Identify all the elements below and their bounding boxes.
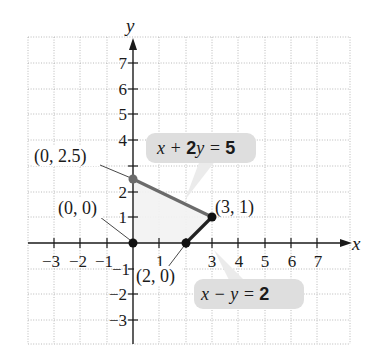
y-tick-label: 6	[119, 80, 128, 99]
x-tick-label: 3	[208, 252, 217, 271]
y-tick-label: 1	[119, 208, 128, 227]
eq1-part-c: y =	[194, 138, 225, 158]
x-tick-label: −2	[69, 252, 87, 271]
vertex-0-2.5	[129, 175, 138, 184]
y-tick-label: −2	[109, 285, 127, 304]
graph-canvas: y x −3 −2 −1 1 3 4 5 6 7 7 6 5 4 2 1 −1 …	[0, 0, 381, 353]
y-tick-label: 7	[119, 54, 128, 73]
vertex-2-0	[182, 239, 191, 248]
point-label-0-2.5: (0, 2.5)	[34, 146, 87, 167]
y-axis-label: y	[124, 15, 135, 36]
equation-label-1: x + 2y = 5	[156, 138, 235, 158]
x-tick-label: 4	[235, 252, 244, 271]
point-label-3-1: (3, 1)	[215, 197, 254, 218]
x-tick-label: 5	[261, 252, 270, 271]
eq1-part-b: 2	[186, 138, 196, 158]
eq2-part-b: 2	[259, 284, 269, 304]
y-tick-label: −3	[109, 311, 127, 330]
x-tick-label: 6	[288, 252, 297, 271]
point-label-2-0: (2, 0)	[136, 266, 175, 287]
x-tick-labels: −3 −2 −1 1 3 4 5 6 7	[42, 252, 323, 271]
equation-label-2: x − y = 2	[200, 284, 269, 304]
y-tick-label: −1	[112, 260, 130, 279]
x-axis-label: x	[351, 233, 361, 254]
x-tick-label: −1	[95, 252, 113, 271]
y-tick-label: 5	[119, 105, 128, 124]
eq1-part-d: 5	[225, 138, 235, 158]
point-label-0-0: (0, 0)	[58, 198, 97, 219]
y-tick-label: 2	[119, 183, 128, 202]
x-tick-label: 7	[314, 252, 323, 271]
eq2-part-a: x − y =	[200, 284, 259, 304]
eq1-part-a: x +	[156, 138, 186, 158]
y-tick-label: 4	[119, 131, 128, 150]
vertex-0-0	[129, 239, 138, 248]
x-tick-label: −3	[42, 252, 60, 271]
